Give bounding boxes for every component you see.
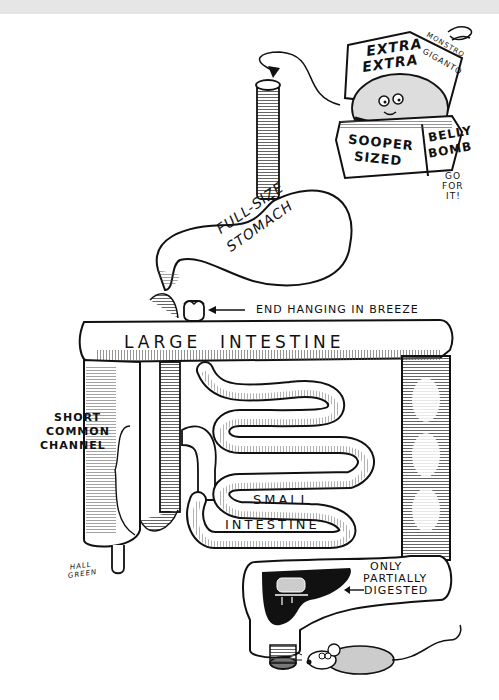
- small-intestine-label-2: INTESTINE: [225, 518, 320, 531]
- rat-icon: [295, 625, 461, 674]
- go-for-it-2: FOR: [442, 182, 464, 191]
- short-channel-label-3: CHANNEL: [40, 440, 106, 451]
- digested-label-1: ONLY: [370, 561, 402, 572]
- go-for-it-3: IT!: [446, 192, 461, 201]
- go-for-it-1: GO: [445, 172, 461, 181]
- smell-squiggle-icon: [448, 27, 472, 40]
- left-arrow-icon: [208, 306, 245, 314]
- large-intestine-label: LARGE INTESTINE: [124, 334, 345, 351]
- short-channel-label-2: COMMON: [46, 426, 110, 437]
- end-hanging-label: END HANGING IN BREEZE: [256, 304, 419, 315]
- digested-label-2: PARTIALLY: [363, 573, 427, 584]
- digested-label-3: DIGESTED: [364, 585, 428, 596]
- short-channel-label-1: SHORT: [54, 412, 101, 423]
- small-intestine-label-1: SMALL: [253, 493, 311, 506]
- closed-stub: [150, 294, 204, 321]
